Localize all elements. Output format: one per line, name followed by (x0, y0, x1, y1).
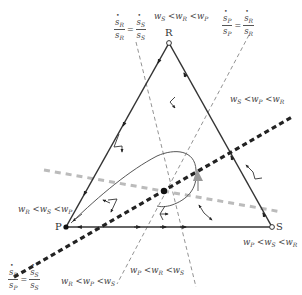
region-label-left: wR <wS <wP (18, 205, 72, 215)
edge-rs (169, 43, 272, 227)
region-label-bottom: wP <wR <wS (130, 266, 184, 276)
vertex-s-marker (270, 225, 275, 230)
region-label-top: wS <wR <wP (154, 12, 208, 22)
vertex-r-marker (167, 41, 172, 46)
vertex-p-label: P (55, 222, 62, 232)
orbit-arrow (73, 214, 82, 221)
isocline-label-rs: sRsR = sSsS (114, 18, 146, 41)
vertex-r-label: R (165, 28, 173, 38)
isocline-label-pr: sPsP = sRsR (222, 14, 254, 37)
heavy-dotted-isocline-ps (14, 117, 292, 277)
vector-field-arrows (103, 97, 262, 220)
region-label-bottom-right: wP <wS <wR (243, 238, 297, 248)
interior-equilibrium-point (161, 188, 167, 194)
isocline-pr-line (117, 35, 249, 284)
vertex-p-marker (63, 224, 68, 229)
isocline-rs-line (136, 42, 196, 287)
edge-flow-arrows (78, 59, 265, 227)
dashed-isoclines (117, 35, 249, 287)
vertex-s-label: S (276, 222, 283, 232)
region-label-right: wS <wP <wR (230, 95, 284, 105)
isocline-label-ps: sPsP = sSsS (8, 268, 40, 291)
region-label-bottom-left: wR <wP <wS (61, 277, 115, 287)
phase-diagram (0, 0, 302, 295)
edge-rp (66, 43, 169, 227)
